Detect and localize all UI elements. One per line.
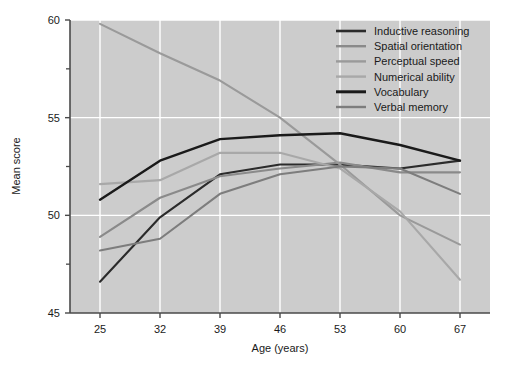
legend-label: Inductive reasoning <box>374 25 469 37</box>
legend-label: Vocabulary <box>374 86 429 98</box>
x-axis-tick-label: 67 <box>454 323 466 335</box>
y-axis-tick-label: 55 <box>48 112 60 124</box>
legend-label: Perceptual speed <box>374 55 460 67</box>
y-axis-tick-label: 60 <box>48 14 60 26</box>
x-axis-tick-label: 46 <box>274 323 286 335</box>
legend-label: Spatial orientation <box>374 40 462 52</box>
x-axis-tick-label: 32 <box>154 323 166 335</box>
y-axis-tick-label: 50 <box>48 209 60 221</box>
x-axis-tick-label: 39 <box>214 323 226 335</box>
y-axis-title: Mean score <box>10 137 22 194</box>
legend-label: Verbal memory <box>374 101 448 113</box>
x-axis-title: Age (years) <box>252 342 309 354</box>
x-axis-tick-label: 25 <box>94 323 106 335</box>
x-axis-tick-label: 60 <box>394 323 406 335</box>
chart-page: 4550556025323946536067 Age (years) Mean … <box>0 0 509 369</box>
x-axis-tick-label: 53 <box>334 323 346 335</box>
line-chart: 4550556025323946536067 Age (years) Mean … <box>0 0 509 369</box>
y-axis-tick-label: 45 <box>48 307 60 319</box>
legend-label: Numerical ability <box>374 71 455 83</box>
